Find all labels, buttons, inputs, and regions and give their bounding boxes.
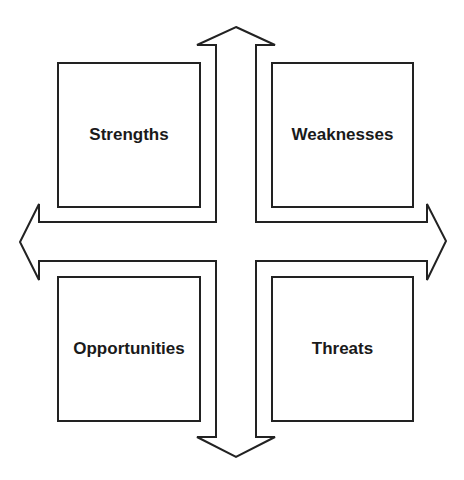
weaknesses-box: Weaknesses <box>271 62 414 208</box>
strengths-box: Strengths <box>57 62 201 208</box>
weaknesses-label: Weaknesses <box>292 125 394 145</box>
opportunities-box: Opportunities <box>57 276 201 422</box>
opportunities-label: Opportunities <box>73 339 184 359</box>
threats-label: Threats <box>312 339 373 359</box>
strengths-label: Strengths <box>89 125 168 145</box>
threats-box: Threats <box>271 276 414 422</box>
